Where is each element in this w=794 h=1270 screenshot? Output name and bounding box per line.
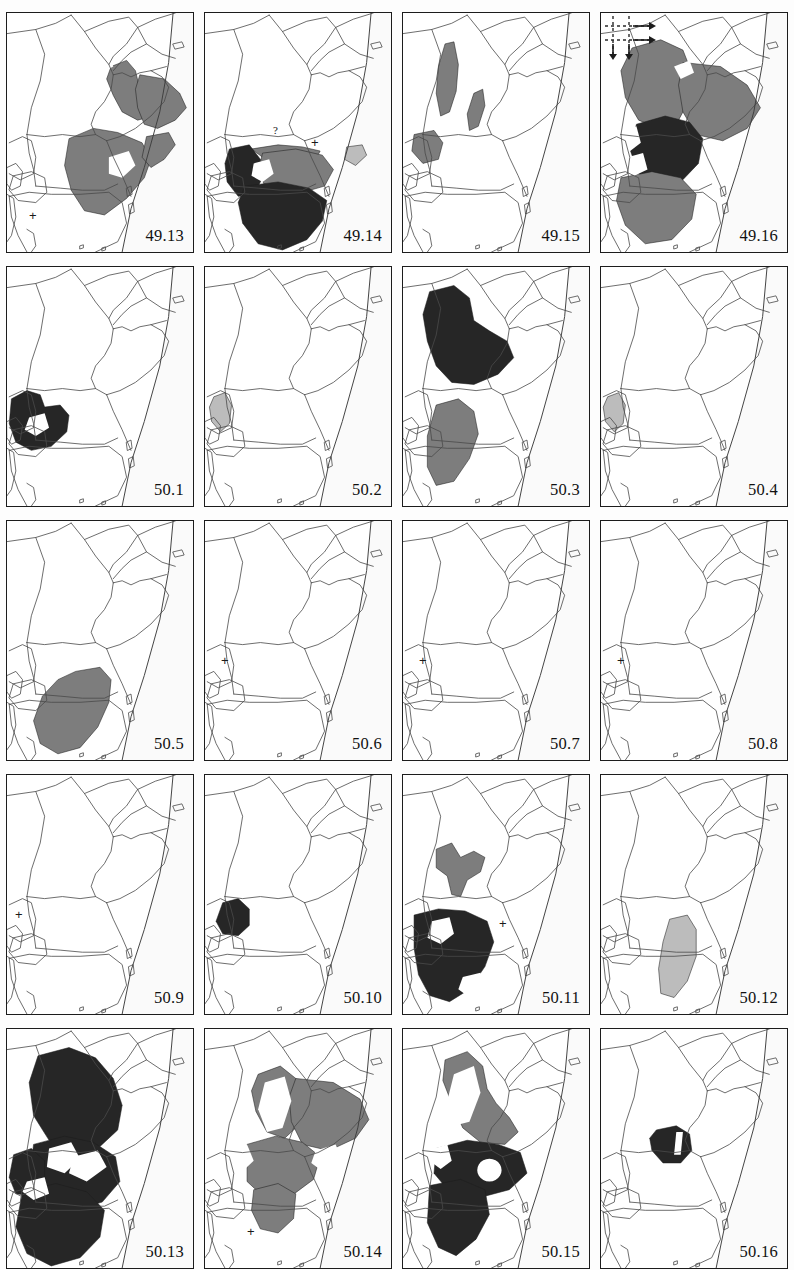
- rift-strip-west: [436, 42, 458, 116]
- country-outline: [432, 184, 514, 190]
- country-outline: [80, 245, 83, 249]
- map-panel[interactable]: +50.8: [600, 520, 788, 761]
- country-outline: [225, 791, 243, 896]
- map-panel[interactable]: ?+49.14: [204, 12, 392, 253]
- country-outline: [27, 991, 36, 1014]
- country-outline: [432, 692, 514, 698]
- country-outline: [476, 1007, 479, 1011]
- country-outline: [534, 775, 572, 789]
- country-outline: [534, 267, 572, 281]
- map-panel[interactable]: 50.15: [402, 1028, 590, 1269]
- sea-area: [320, 521, 391, 760]
- country-outline: [127, 694, 133, 704]
- country-outline: [325, 694, 331, 704]
- plus-marker: +: [419, 654, 427, 667]
- country-outline: [325, 186, 331, 196]
- panel-label: 49.16: [739, 228, 778, 245]
- plus-marker: +: [499, 917, 507, 930]
- country-outline: [138, 775, 176, 789]
- map-panel[interactable]: 49.15: [402, 12, 590, 253]
- country-outline: [127, 440, 133, 450]
- map-panel[interactable]: 50.1: [6, 266, 194, 507]
- country-outline: [481, 779, 534, 826]
- map-panel[interactable]: 50.16: [600, 1028, 788, 1269]
- country-outline: [269, 523, 311, 583]
- country-outline: [207, 196, 225, 252]
- country-outline: [476, 245, 479, 249]
- country-outline: [225, 897, 294, 899]
- country-outline: [336, 521, 374, 535]
- map-panel[interactable]: 50.4: [600, 266, 788, 507]
- country-outline: [405, 704, 423, 760]
- sea-area: [320, 13, 391, 252]
- sea-area: [716, 521, 787, 760]
- small-kenya-range: [650, 1126, 692, 1163]
- country-outline: [721, 694, 727, 704]
- country-outline: [138, 13, 176, 27]
- country-outline: [9, 196, 27, 252]
- country-outline: [225, 29, 243, 134]
- country-outline: [405, 1212, 423, 1268]
- country-outline: [234, 946, 316, 952]
- country-outline: [423, 791, 441, 896]
- country-outline: [325, 948, 331, 958]
- country-outline: [113, 806, 146, 833]
- country-outline: [403, 15, 467, 34]
- country-outline: [225, 643, 294, 645]
- country-outline: [423, 897, 492, 899]
- country-outline: [113, 1060, 146, 1087]
- country-outline: [630, 692, 712, 698]
- country-outline: [113, 552, 146, 579]
- country-outline: [269, 777, 311, 837]
- country-outline: [138, 267, 176, 281]
- map-panel[interactable]: +50.6: [204, 520, 392, 761]
- plus-marker: +: [311, 136, 319, 149]
- map-panel[interactable]: +50.14: [204, 1028, 392, 1269]
- tanzania-range: [238, 182, 327, 250]
- country-outline: [467, 777, 509, 837]
- map-panel-grid: +49.13?+49.1449.1549.1650.150.250.350.45…: [6, 12, 788, 1266]
- country-outline: [481, 1033, 534, 1080]
- map-panel[interactable]: +50.11: [402, 774, 590, 1015]
- map-panel[interactable]: +50.9: [6, 774, 194, 1015]
- map-panel[interactable]: 50.12: [600, 774, 788, 1015]
- country-outline: [27, 229, 36, 252]
- map-panel[interactable]: 50.10: [204, 774, 392, 1015]
- country-outline: [27, 791, 45, 896]
- country-outline: [71, 269, 113, 329]
- country-outline: [9, 958, 27, 1014]
- country-outline: [403, 1031, 467, 1050]
- country-outline: [481, 525, 534, 572]
- map-panel[interactable]: 49.16: [600, 12, 788, 253]
- country-outline: [7, 523, 71, 542]
- country-outline: [71, 523, 113, 583]
- map-panel[interactable]: 50.2: [204, 266, 392, 507]
- country-outline: [71, 777, 113, 837]
- country-outline: [283, 779, 336, 826]
- country-outline: [732, 1029, 770, 1043]
- country-outline: [721, 440, 727, 450]
- country-outline: [27, 897, 96, 899]
- country-outline: [283, 525, 336, 572]
- tanzania-range: [427, 1179, 489, 1255]
- panel-label: 50.6: [352, 736, 382, 753]
- country-outline: [225, 229, 234, 252]
- map-panel[interactable]: 50.3: [402, 266, 590, 507]
- country-outline: [27, 643, 96, 645]
- map-panel[interactable]: 50.5: [6, 520, 194, 761]
- tanzania-range: [34, 667, 112, 754]
- country-outline: [523, 694, 529, 704]
- country-outline: [27, 483, 36, 506]
- map-panel[interactable]: 50.13: [6, 1028, 194, 1269]
- country-outline: [91, 837, 113, 903]
- map-panel[interactable]: +50.7: [402, 520, 590, 761]
- scan-arrows-icon: [603, 14, 659, 60]
- panel-label: 50.13: [145, 1244, 184, 1261]
- country-outline: [523, 186, 529, 196]
- country-outline: [85, 17, 138, 64]
- country-outline: [336, 267, 374, 281]
- country-outline: [85, 525, 138, 572]
- plus-marker: +: [15, 908, 23, 921]
- map-panel[interactable]: +49.13: [6, 12, 194, 253]
- sea-area: [518, 13, 589, 252]
